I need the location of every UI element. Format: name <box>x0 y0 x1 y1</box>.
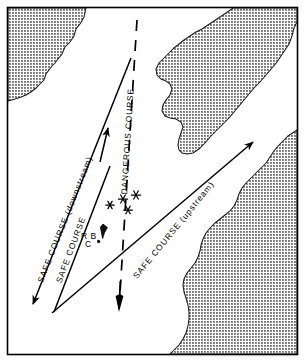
buoy-label-line2: C <box>85 239 92 249</box>
buoy-position-dot <box>97 240 100 243</box>
dangerous-course-arrow-shaft <box>120 281 121 298</box>
nautical-chart-figure: R B C SAFE COURSE (downstream) SAFE COUR… <box>0 0 305 362</box>
chart-canvas: R B C SAFE COURSE (downstream) SAFE COUR… <box>0 0 305 362</box>
